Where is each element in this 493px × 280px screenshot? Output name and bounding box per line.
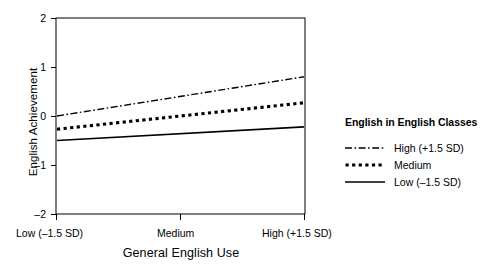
legend-label-low: Low (–1.5 SD) (394, 176, 461, 188)
y-tick-label-2: 2 (20, 13, 46, 23)
y-tick-label-1: 1 (20, 62, 46, 72)
y-tick-label-0: 0 (20, 111, 46, 121)
x-axis-title: General English Use (56, 246, 306, 260)
legend-label-medium: Medium (394, 159, 431, 171)
legend-swatch-dotted-icon (345, 160, 385, 170)
legend-swatch-solid-icon (345, 177, 385, 187)
legend-label-high: High (+1.5 SD) (394, 142, 464, 154)
series-lines (57, 77, 304, 141)
y-tick-label-neg1: –1 (20, 160, 46, 170)
legend-item-medium: Medium (345, 156, 490, 173)
y-axis-ticks (51, 19, 56, 215)
plot-frame (56, 18, 305, 214)
x-axis-ticks (57, 214, 305, 220)
legend-swatch-dash-dot-icon (345, 143, 385, 153)
y-tick-label-neg2: –2 (20, 209, 46, 219)
legend-item-low: Low (–1.5 SD) (345, 173, 490, 190)
legend-title: English in English Classes (345, 116, 490, 128)
legend-item-high: High (+1.5 SD) (345, 139, 490, 156)
legend: English in English Classes High (+1.5 SD… (345, 116, 490, 190)
series-line-high (57, 77, 304, 116)
x-tick-label-low: Low (–1.5 SD) (16, 228, 83, 238)
series-line-medium (57, 103, 304, 129)
x-tick-label-high: High (+1.5 SD) (262, 228, 332, 238)
chart-figure: English Achievement 2 1 0 –1 –2 Low (–1.… (0, 0, 493, 280)
x-tick-label-medium: Medium (157, 228, 194, 238)
series-line-low (57, 127, 304, 141)
